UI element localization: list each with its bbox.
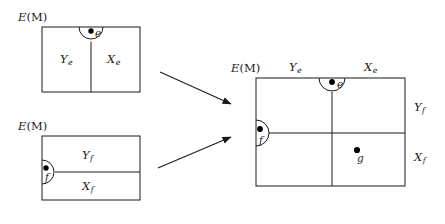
top-left-region-Ye: Ye [60,54,73,66]
composite-complex-shapes [256,78,405,186]
composite-box [256,78,405,186]
composite-point-e-dot [329,79,335,85]
bottom-left-point-f-dot [43,165,48,170]
bottom-left-region-Yf-base: Y [82,148,90,162]
composite-label-Xe-sub: e [373,66,378,75]
composite-label-Yf: Yf [414,102,425,114]
composite-label-Xe: Xe [364,62,377,74]
composite-point-f-dot [257,126,263,132]
composite-label-Xf: Xf [414,152,426,164]
composite-label-Yf-sub: f [422,106,425,115]
composite-label-Xf-sub: f [423,156,426,165]
composite-ambient-paren: (M) [239,61,260,75]
top-left-region-Xe-sub: e [116,58,121,67]
top-left-region-Ye-sub: e [68,58,73,67]
composite-point-f-label: f [259,135,263,146]
arrow-from-bottom-left [158,137,231,168]
composite-point-g-label: g [357,153,364,164]
diagram-canvas: E(M) Ye Xe e E(M) Yf Xf f E(M) Ye Xe Yf … [0,0,445,224]
top-left-ambient-label: E(M) [18,12,47,24]
composite-label-Yf-base: Y [414,100,422,114]
composite-label-Ye: Ye [289,62,302,74]
bottom-left-ambient-label: E(M) [18,121,47,133]
diagram-vector-layer [0,0,445,224]
bottom-left-region-Xf-sub: f [91,185,94,194]
top-left-region-Ye-base: Y [60,52,68,66]
composite-label-Xf-base: X [414,150,422,164]
top-left-complex-shapes [42,27,140,92]
bottom-left-region-Yf: Yf [82,150,93,162]
bottom-left-region-Xf-base: X [82,179,90,193]
bottom-left-region-Xf: Xf [82,181,94,193]
top-left-ambient-paren: (M) [26,10,47,24]
top-left-region-Xe: Xe [107,54,120,66]
arrow-from-top-left [160,72,231,104]
composite-ambient-label: E(M) [231,63,260,75]
composite-label-Ye-sub: e [297,66,302,75]
bottom-left-ambient-paren: (M) [26,119,47,133]
composite-label-Xe-base: X [364,60,372,74]
top-left-region-Xe-base: X [107,52,115,66]
composite-point-e-label: e [337,79,343,90]
top-left-point-e-dot [88,28,93,33]
composite-label-Ye-base: Y [289,60,297,74]
bottom-left-region-Yf-sub: f [90,154,93,163]
bottom-left-point-f-label: f [45,172,49,183]
top-left-point-e-label: e [95,28,101,39]
